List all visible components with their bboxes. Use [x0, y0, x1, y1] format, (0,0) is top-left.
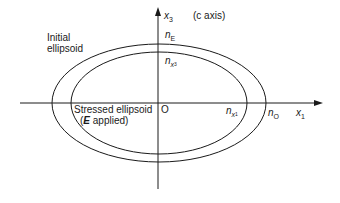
n-x1-label: nx1 — [226, 105, 238, 118]
n-x3-label: nx3 — [165, 55, 177, 68]
x3-axis-label: x3 — [164, 10, 173, 22]
x3-subscript: 3 — [169, 16, 173, 23]
stressed-ellipsoid-line1: Stressed ellipsoid — [74, 104, 152, 115]
initial-ellipsoid-line2: ellipsoid — [47, 43, 83, 54]
n-e-label: nE — [165, 29, 175, 41]
c-axis-note: (c axis) — [193, 10, 225, 21]
stressed-ellipsoid-label: Stressed ellipsoid (E applied) — [74, 104, 152, 126]
origin-label: O — [161, 104, 169, 115]
c-axis-note-text: (c axis) — [193, 10, 225, 21]
n-e-symbol: n — [165, 29, 171, 40]
field-e-symbol: E — [83, 115, 90, 126]
x1-axis-label: x1 — [296, 107, 305, 119]
stressed-applied-text: applied) — [90, 115, 128, 126]
x1-subscript: 1 — [301, 113, 305, 120]
n-x1-subsubscript: 1 — [235, 111, 238, 117]
n-x3-subsubscript: 3 — [174, 61, 177, 67]
n-o-symbol: n — [268, 107, 274, 118]
x1-arrowhead-icon — [314, 100, 323, 106]
n-o-label: nO — [268, 107, 279, 119]
stressed-ellipsoid-line2: (E applied) — [74, 115, 152, 126]
n-o-subscript: O — [274, 113, 279, 120]
x3-arrowhead-icon — [155, 7, 161, 16]
initial-ellipsoid-label: Initial ellipsoid — [47, 32, 83, 54]
n-x1-symbol: n — [226, 105, 232, 116]
n-e-subscript: E — [171, 35, 176, 42]
initial-ellipsoid-line1: Initial — [47, 32, 83, 43]
origin-text: O — [161, 104, 169, 115]
index-ellipsoid-diagram: x3 (c axis) nE nx3 Initial ellipsoid Str… — [0, 0, 340, 203]
n-x3-symbol: n — [165, 55, 171, 66]
